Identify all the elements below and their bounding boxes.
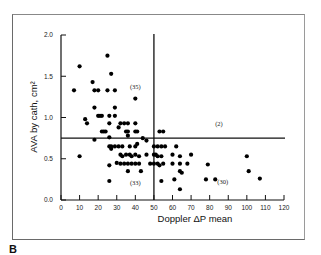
data-point [159,144,163,148]
data-point [118,162,122,166]
data-point [107,179,111,183]
data-point [100,114,104,118]
data-point [126,169,130,173]
data-point [148,162,152,166]
x-tick-label: 40 [132,204,140,211]
data-point [161,129,165,133]
data-point [152,144,156,148]
data-point [185,162,189,166]
data-point [133,121,137,125]
data-point [113,144,117,148]
data-point [144,153,148,157]
data-point [135,142,139,146]
data-point [159,154,163,158]
y-axis-label: AVA by cath, cm² [28,81,39,152]
data-point [83,117,87,121]
data-point [161,162,165,166]
data-point [159,179,163,183]
data-point [139,169,143,173]
data-point [178,162,182,166]
data-point [178,154,182,158]
data-point [122,162,126,166]
y-tick-label: 1.0 [44,114,53,121]
data-point [172,177,176,181]
data-point [170,162,174,166]
data-point [113,114,117,118]
data-point [170,153,174,157]
data-point [133,162,137,166]
data-point [118,121,122,125]
data-point [133,153,137,157]
x-tick-label: 60 [169,204,177,211]
x-tick-label: 120 [279,204,290,211]
data-point [72,88,76,92]
data-point [107,135,111,139]
data-point [247,169,251,173]
data-point [113,88,117,92]
data-point [107,121,111,125]
y-tick-label: 2.0 [44,31,53,38]
data-point [109,147,113,151]
data-point [120,154,124,158]
data-point [137,154,141,158]
reference-lines [61,34,285,200]
data-point [180,171,184,175]
data-point [113,106,117,110]
data-points [72,54,262,192]
x-tick-label: 70 [187,204,195,211]
data-point [77,154,81,158]
data-point [189,153,193,157]
data-point [126,121,130,125]
y-tick-label: 0.5 [44,155,53,162]
data-point [204,177,208,181]
axes: 01020304050607080901001101200.00.51.01.5… [44,31,290,211]
data-point [104,129,108,133]
data-point [122,121,126,125]
y-tick-label: 1.5 [44,73,53,80]
x-tick-label: 10 [76,204,84,211]
data-point [90,80,94,84]
x-tick-label: 0 [59,204,63,211]
data-point [156,154,160,158]
panel-label: B [9,243,17,255]
quadrant-count-label: (33) [130,179,141,187]
x-tick-label: 30 [113,204,121,211]
data-point [135,129,139,133]
x-axis-label: Doppler ΔP mean [158,213,233,224]
data-point [96,88,100,92]
data-point [133,96,137,100]
data-point [85,121,89,125]
scatter-plot: 01020304050607080901001101200.00.51.01.5… [0,0,321,255]
data-point [163,144,167,148]
data-point [126,129,130,133]
x-tick-label: 110 [260,204,271,211]
quadrant-count-label: (30) [217,178,228,186]
data-point [105,54,109,58]
data-point [107,114,111,118]
data-point [178,187,182,191]
data-point [117,125,121,129]
x-tick-label: 80 [206,204,214,211]
data-point [126,162,130,166]
data-point [130,162,134,166]
data-point [124,153,128,157]
data-point [92,106,96,110]
data-point [137,162,141,166]
data-point [77,64,81,68]
data-point [152,162,156,166]
data-point [126,134,130,138]
data-point [156,144,160,148]
data-point [144,139,148,143]
data-point [130,154,134,158]
data-point [245,154,249,158]
data-point [92,138,96,142]
x-tick-label: 50 [150,204,158,211]
y-tick-label: 0.0 [44,196,53,203]
x-tick-label: 100 [241,204,252,211]
x-tick-label: 20 [95,204,103,211]
data-point [107,163,111,167]
data-point [109,72,113,76]
data-point [157,129,161,133]
data-point [115,161,119,165]
data-point [92,88,96,92]
